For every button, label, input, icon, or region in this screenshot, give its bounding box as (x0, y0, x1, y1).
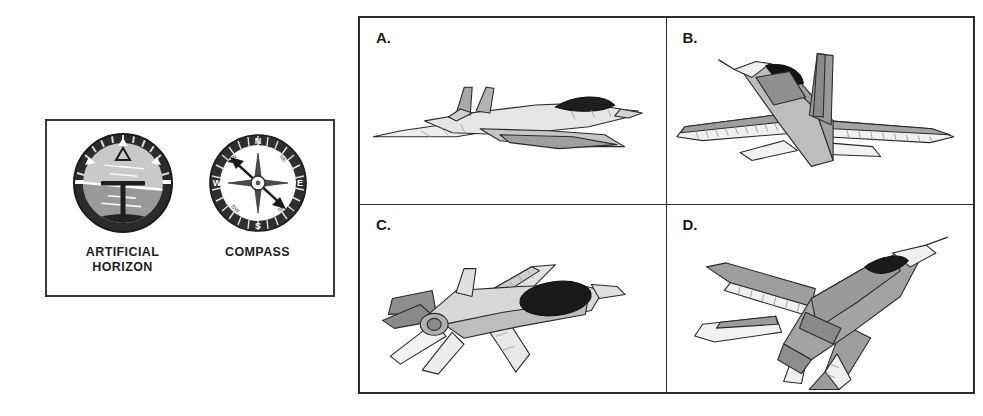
compass-gauge: N E S W NW NE SE SW (206, 131, 310, 235)
artificial-horizon-gauge (71, 131, 175, 235)
aircraft-grid: A. (358, 16, 975, 394)
compass-point-w: W (212, 178, 221, 188)
aircraft-cell-b[interactable]: B. (667, 18, 974, 205)
artificial-horizon-icon (71, 131, 175, 235)
instrument-artificial-horizon: ARTIFICIAL HORIZON (60, 131, 185, 275)
aircraft-illustration-b (667, 18, 974, 204)
instrument-panel-box: ARTIFICIAL HORIZON (45, 119, 335, 297)
compass-point-e: E (296, 178, 302, 188)
aircraft-illustration-d (667, 205, 974, 392)
compass-point-n: N (254, 136, 261, 146)
aircraft-cell-a[interactable]: A. (360, 18, 667, 205)
compass-point-s: S (254, 221, 260, 231)
aircraft-illustration-c (360, 205, 666, 392)
aircraft-illustration-a (360, 18, 666, 204)
aircraft-cell-d[interactable]: D. (667, 205, 974, 392)
compass-label: COMPASS (195, 245, 320, 260)
instrument-compass: N E S W NW NE SE SW (195, 131, 320, 260)
compass-icon: N E S W NW NE SE SW (206, 131, 310, 235)
aircraft-cell-c[interactable]: C. (360, 205, 667, 392)
artificial-horizon-label: ARTIFICIAL HORIZON (60, 245, 185, 275)
